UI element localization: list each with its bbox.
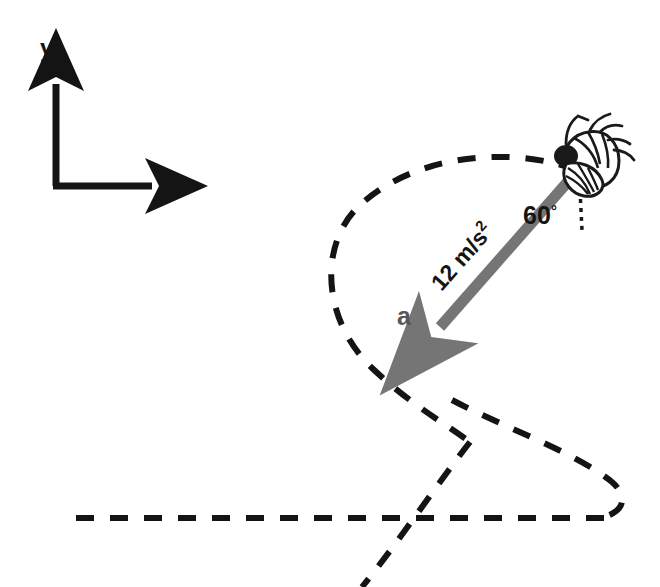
y-axis-label: y [40, 34, 54, 62]
coordinate-axes: y x [40, 34, 185, 200]
trajectory-right-sweep [452, 400, 622, 518]
physics-diagram-canvas: y x 12 m/s2 a 60° [0, 0, 660, 587]
trajectory-lower-tail [362, 442, 470, 587]
angle-label: 60° [523, 201, 557, 229]
angle-value-text: 60 [523, 201, 551, 229]
acceleration-vector-group: 12 m/s2 a [397, 177, 572, 330]
vector-magnitude-label: 12 m/s2 [424, 217, 498, 296]
degree-symbol: ° [551, 202, 557, 219]
vector-magnitude-label-group: 12 m/s2 [424, 217, 498, 296]
acceleration-vector-label: a [397, 302, 412, 330]
x-axis-label: x [171, 172, 185, 200]
diagram-svg: y x 12 m/s2 a 60° [0, 0, 660, 587]
fly-insect [555, 114, 634, 196]
